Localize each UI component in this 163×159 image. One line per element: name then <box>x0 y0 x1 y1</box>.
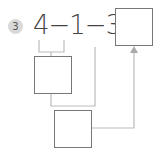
arrow-up-icon <box>130 46 138 53</box>
problem-number-badge: 3 <box>8 19 23 34</box>
step-box-1[interactable] <box>34 56 72 94</box>
step-box-2[interactable] <box>54 110 92 148</box>
answer-box[interactable] <box>115 8 153 46</box>
